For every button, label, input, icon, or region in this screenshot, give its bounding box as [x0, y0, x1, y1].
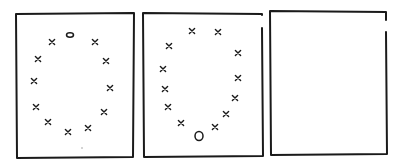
- x-mark: [65, 129, 70, 134]
- x-mark: [107, 85, 112, 90]
- panel-3: [270, 11, 387, 155]
- x-mark: [189, 28, 194, 33]
- x-mark: [235, 75, 240, 80]
- o-mark: [195, 132, 203, 141]
- o-mark: [67, 33, 74, 37]
- x-mark: [178, 120, 183, 125]
- x-mark: [166, 43, 171, 48]
- x-mark: [223, 111, 228, 116]
- panel-1: [16, 13, 134, 158]
- x-mark: [235, 50, 240, 55]
- x-mark: [215, 29, 220, 34]
- x-mark: [49, 39, 54, 44]
- x-mark: [232, 95, 237, 100]
- x-mark: [103, 58, 108, 63]
- panel-frame: [270, 11, 387, 155]
- stray-dot: [81, 147, 82, 148]
- x-mark: [31, 78, 36, 83]
- x-mark: [165, 104, 170, 109]
- panel-2: [143, 13, 263, 157]
- x-mark: [35, 56, 40, 61]
- x-mark: [92, 39, 97, 44]
- x-mark: [162, 86, 167, 91]
- sequence-diagram: [0, 0, 400, 167]
- panel-frame: [16, 13, 134, 158]
- x-mark: [160, 66, 165, 71]
- x-mark: [101, 109, 106, 114]
- x-mark: [212, 124, 217, 129]
- x-mark: [85, 125, 90, 130]
- x-mark: [33, 104, 38, 109]
- x-mark: [45, 119, 50, 124]
